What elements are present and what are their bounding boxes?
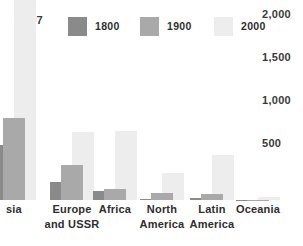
bar-1900-oceania[interactable]	[247, 200, 269, 201]
bar-group	[93, 0, 137, 200]
plot-area	[0, 0, 258, 200]
x-label-oceania: Oceania	[222, 202, 294, 217]
bar-group	[50, 0, 94, 200]
bar-1900-asia[interactable]	[3, 118, 25, 200]
bar-chart: 3,307 1800 1900 2000 2,000 1,500 1,000 5…	[0, 0, 303, 246]
y-tick-2000: 2,000	[262, 8, 291, 20]
bar-1900-latin-america[interactable]	[201, 194, 223, 200]
x-axis-category-labels: siaEurope and USSRAfricaNorth AmericaLat…	[0, 202, 303, 246]
bar-group	[140, 0, 184, 200]
bar-1900-europe-and-ussr[interactable]	[61, 165, 83, 200]
bar-1900-north-america[interactable]	[151, 193, 173, 200]
bar-group	[0, 0, 36, 200]
y-tick-1500: 1,500	[262, 51, 291, 63]
y-tick-500: 500	[262, 137, 281, 149]
y-tick-1000: 1,000	[262, 94, 291, 106]
y-axis: 2,000 1,500 1,000 500	[262, 0, 303, 200]
bar-1900-africa[interactable]	[104, 189, 126, 201]
bar-group	[190, 0, 234, 200]
